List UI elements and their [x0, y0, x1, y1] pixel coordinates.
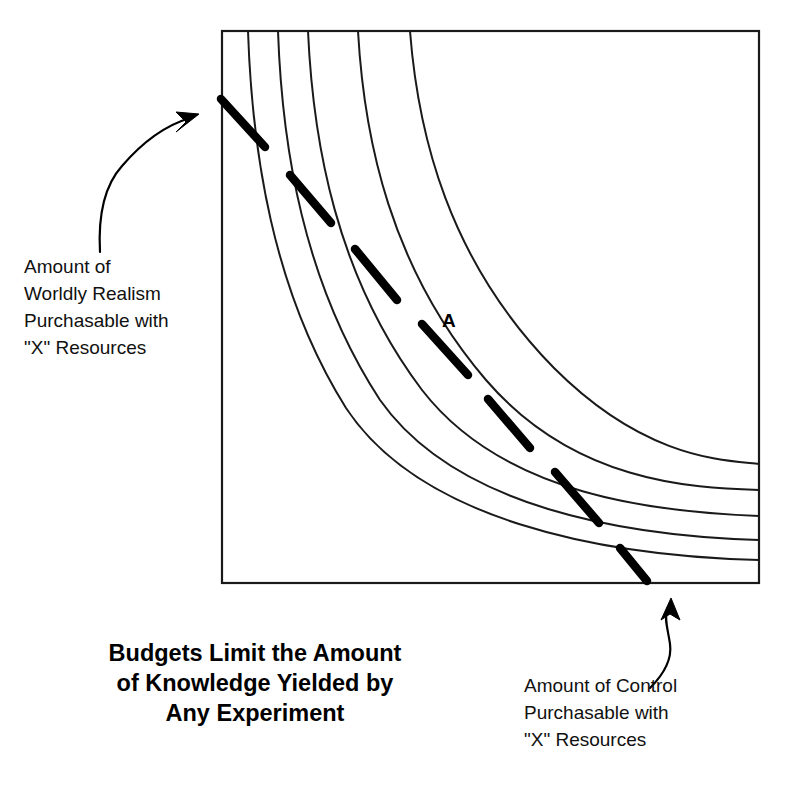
figure-title: Budgets Limit the Amount of Knowledge Yi… — [20, 638, 490, 728]
plot-frame — [222, 31, 759, 583]
isoquant-point-label-a: A — [442, 310, 456, 332]
left-callout-arrow-shaft — [100, 118, 190, 252]
right-callout-arrow-head — [661, 598, 680, 620]
annotation-amount-of-control: Amount of Control Purchasable with "X" R… — [524, 672, 677, 753]
left-callout-arrow — [100, 112, 199, 252]
annotation-worldly-realism: Amount of Worldly Realism Purchasable wi… — [24, 253, 169, 361]
figure-page: A Amount of Worldly Realism Purchasable … — [0, 0, 799, 807]
